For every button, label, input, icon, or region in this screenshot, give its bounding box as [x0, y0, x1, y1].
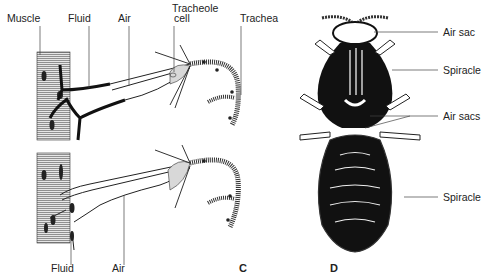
label-fluid-bottom: Fluid: [51, 262, 74, 274]
label-fluid-top: Fluid: [68, 12, 91, 24]
label-air-sac: Air sac: [443, 26, 475, 38]
panel-c-bottom-drawing: [37, 145, 238, 250]
label-tracheole-cell: cell: [174, 12, 190, 24]
label-air-sacs: Air sacs: [443, 110, 480, 122]
panel-d-insect-drawing: [300, 17, 420, 252]
panel-letter-d: D: [330, 262, 338, 274]
label-trachea: Trachea: [240, 12, 278, 24]
label-muscle: Muscle: [7, 12, 40, 24]
label-spiracle-2: Spiracle: [443, 191, 481, 203]
panel-c-top-drawing: [37, 45, 238, 140]
label-air-top: Air: [118, 12, 131, 24]
label-spiracle-1: Spiracle: [443, 64, 481, 76]
diagram-canvas: [0, 0, 486, 276]
label-air-bottom: Air: [112, 262, 125, 274]
panel-letter-c: C: [239, 262, 247, 274]
muscle-block-bottom: [37, 153, 70, 243]
